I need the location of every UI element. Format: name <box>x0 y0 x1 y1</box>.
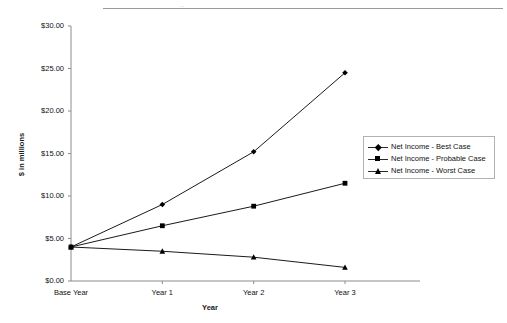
legend-label: Net Income - Worst Case <box>391 165 475 177</box>
y-tick-label: $15.00 <box>18 149 64 158</box>
x-tick-label: Year 3 <box>310 288 380 297</box>
y-tick-label: $20.00 <box>18 106 64 115</box>
y-tick-label: $0.00 <box>18 276 64 285</box>
y-tick-label: $10.00 <box>18 191 64 200</box>
chart-canvas: .. $ in millions Year $30.00$25.00$20.00… <box>0 0 507 323</box>
legend-item[interactable]: Net Income - Best Case <box>368 141 490 153</box>
chart-legend: Net Income - Best Case Net Income - Prob… <box>363 136 495 179</box>
y-tick-label: $25.00 <box>18 64 64 73</box>
y-tick-label: $30.00 <box>18 21 64 30</box>
x-axis-title: Year <box>0 303 420 312</box>
x-tick-label: Year 2 <box>219 288 289 297</box>
legend-marker-diamond-icon <box>368 143 388 152</box>
y-tick-label: $5.00 <box>18 234 64 243</box>
x-tick-label: Year 1 <box>127 288 197 297</box>
legend-label: Net Income - Probable Case <box>391 153 486 165</box>
legend-marker-square-icon <box>368 155 388 164</box>
legend-item[interactable]: Net Income - Probable Case <box>368 153 490 165</box>
x-tick-label: Base Year <box>36 288 106 297</box>
legend-label: Net Income - Best Case <box>391 141 471 153</box>
legend-item[interactable]: Net Income - Worst Case <box>368 165 490 177</box>
legend-marker-triangle-icon <box>368 167 388 176</box>
